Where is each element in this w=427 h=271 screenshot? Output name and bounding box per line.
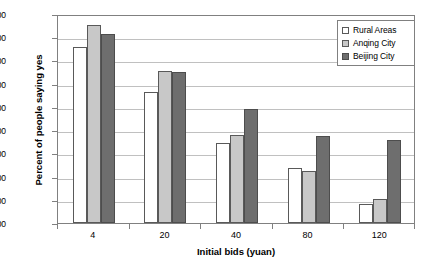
legend-swatch-icon [342,53,349,60]
x-tick-label: 80 [303,230,313,240]
bar [216,143,230,223]
bar [288,168,302,223]
legend-label: Rural Areas [353,25,396,35]
y-tick-label: 0.00 [0,219,6,229]
bar [87,25,101,223]
legend-swatch-icon [342,27,349,34]
x-tick-mark [272,224,273,229]
x-tick-label: 40 [231,230,241,240]
legend-label: Anqing City [353,38,395,48]
y-tick-label: 40.00 [0,126,6,136]
x-tick-mark [343,224,344,229]
legend-swatch-icon [342,40,349,47]
y-axis-title-container: Percent of people saying yes [8,15,28,224]
bar [316,136,330,223]
x-tick-mark [200,224,201,229]
y-tick-label: 60.00 [0,80,6,90]
x-tick-label: 120 [372,230,387,240]
x-axis-title: Initial bids (yuan) [57,246,415,257]
y-tick-label: 30.00 [0,149,6,159]
y-axis-title: Percent of people saying yes [33,20,44,220]
bar [101,34,115,223]
y-tick-label: 20.00 [0,173,6,183]
y-tick-label: 80.00 [0,33,6,43]
legend-label: Beijing City [353,51,394,61]
y-tick-label: 90.00 [0,10,6,20]
x-tick-label: 20 [159,230,169,240]
x-tick-mark [129,224,130,229]
bar [144,92,158,223]
bar [244,109,258,223]
y-tick-label: 10.00 [0,196,6,206]
bar [73,47,87,223]
bar [158,71,172,223]
y-tick-label: 70.00 [0,56,6,66]
x-tick-mark [414,224,415,229]
x-tick-label: 4 [90,230,95,240]
legend-item: Rural Areas [342,24,411,36]
legend-item: Anqing City [342,37,411,49]
bar [230,135,244,223]
bar [387,140,401,223]
legend-item: Beijing City [342,50,411,62]
y-tick-label: 50.00 [0,103,6,113]
bar [172,72,186,223]
x-tick-mark [57,224,58,229]
chart-legend: Rural AreasAnqing CityBeijing City [337,20,415,66]
bar [302,171,316,223]
bar-chart: Percent of people saying yes 0.0010.0020… [0,0,427,271]
bar [373,199,387,223]
bar [359,204,373,223]
